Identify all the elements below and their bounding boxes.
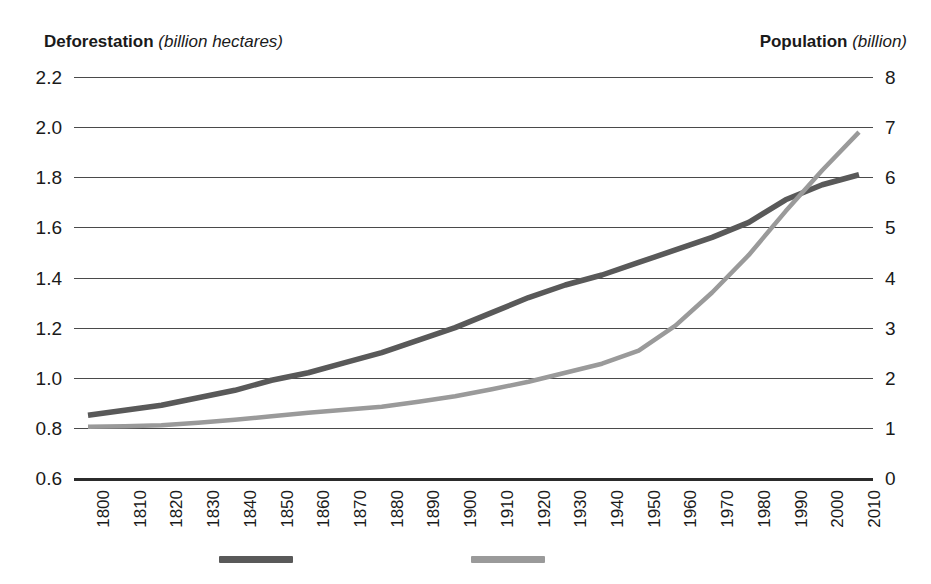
right-axis-tick-label: 0	[885, 469, 896, 488]
left-axis-tick-label: 1.4	[36, 268, 62, 287]
x-axis-tick-label: 1890	[425, 490, 442, 528]
x-axis-tick-label: 1830	[205, 490, 222, 528]
population-line	[88, 132, 859, 427]
plot-area: 2.22.01.81.61.41.21.00.80.6 876543210 18…	[88, 77, 859, 478]
x-axis-tick-label: 1910	[499, 490, 516, 528]
left-axis-title: Deforestation (billion hectares)	[44, 33, 283, 50]
left-axis-tick-label: 0.8	[36, 418, 62, 437]
legend-swatch-deforestation	[219, 556, 293, 563]
x-axis-tick-label: 1990	[793, 490, 810, 528]
right-axis-title: Population (billion)	[760, 33, 907, 50]
left-axis-tick-label: 1.2	[36, 318, 62, 337]
left-axis-tick-label: 1.0	[36, 368, 62, 387]
left-axis-title-units: (billion hectares)	[158, 32, 283, 51]
series-lines	[88, 77, 859, 478]
x-axis-tick-label: 1860	[315, 490, 332, 528]
x-axis-tick-label: 1800	[95, 490, 112, 528]
chart-legend	[0, 556, 931, 584]
legend-item-deforestation[interactable]	[219, 556, 301, 563]
x-axis-tick-label: 1960	[682, 490, 699, 528]
x-axis-tick-label: 1820	[168, 490, 185, 528]
right-axis-title-text: Population	[760, 32, 848, 51]
x-axis-tick-label: 1920	[536, 490, 553, 528]
x-axis-tick-label: 1880	[389, 490, 406, 528]
right-axis-tick-label: 5	[885, 218, 896, 237]
left-axis-tick-label: 0.6	[36, 469, 62, 488]
x-axis-tick-label: 1850	[279, 490, 296, 528]
left-axis-tick-label: 2.2	[36, 68, 62, 87]
x-axis-tick-label: 1980	[756, 490, 773, 528]
deforestation-population-chart: Deforestation (billion hectares) Populat…	[0, 0, 931, 584]
right-axis-tick-label: 4	[885, 268, 896, 287]
left-axis-title-text: Deforestation	[44, 32, 154, 51]
right-axis-tick-label: 6	[885, 168, 896, 187]
x-axis-tick-label: 1930	[572, 490, 589, 528]
right-axis-tick-label: 1	[885, 418, 896, 437]
right-axis-tick-label: 2	[885, 368, 896, 387]
legend-item-population[interactable]	[471, 556, 553, 563]
deforestation-line	[88, 175, 859, 416]
right-axis-title-units: (billion)	[852, 32, 907, 51]
x-axis-tick-label: 2010	[866, 490, 883, 528]
x-axis-tick-label: 1900	[462, 490, 479, 528]
left-axis-tick-label: 1.6	[36, 218, 62, 237]
x-axis-tick-label: 1970	[719, 490, 736, 528]
right-axis-tick-label: 7	[885, 118, 896, 137]
x-axis-tick-label: 1940	[609, 490, 626, 528]
left-axis-tick-label: 1.8	[36, 168, 62, 187]
left-axis-tick-label: 2.0	[36, 118, 62, 137]
x-axis-tick-label: 1950	[646, 490, 663, 528]
right-axis-tick-label: 3	[885, 318, 896, 337]
gridline	[74, 478, 873, 481]
legend-swatch-population	[471, 556, 545, 563]
right-axis-tick-label: 8	[885, 68, 896, 87]
x-axis-tick-label: 1870	[352, 490, 369, 528]
x-axis-tick-label: 2000	[829, 490, 846, 528]
x-axis-tick-label: 1840	[242, 490, 259, 528]
x-axis-tick-label: 1810	[132, 490, 149, 528]
